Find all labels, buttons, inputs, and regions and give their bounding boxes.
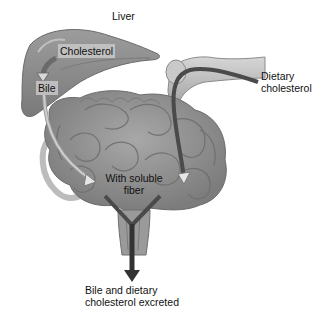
soluble-fiber-label: With soluble fiber [103, 172, 165, 196]
fiber-label-line1: With soluble [103, 172, 165, 184]
cholesterol-label: Cholesterol [58, 44, 115, 58]
diagram-canvas: Liver Cholesterol Bile Dietary cholester… [0, 0, 330, 311]
dietary-label-line1: Dietary [261, 70, 312, 82]
dietary-cholesterol-label: Dietary cholesterol [261, 70, 312, 94]
excreted-label-line1: Bile and dietary [85, 284, 179, 296]
dietary-label-line2: cholesterol [261, 82, 312, 94]
bile-label: Bile [36, 81, 58, 95]
fiber-label-line2: fiber [103, 184, 165, 196]
excreted-label-line2: cholesterol excreted [85, 296, 179, 308]
liver-label: Liver [112, 10, 135, 22]
excreted-label: Bile and dietary cholesterol excreted [85, 284, 179, 308]
anatomy-illustration [0, 0, 330, 311]
